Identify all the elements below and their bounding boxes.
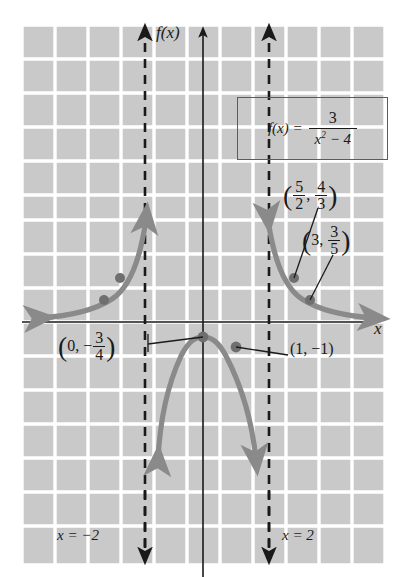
x-axis-label: x xyxy=(374,320,382,337)
paren-open: ( xyxy=(58,333,67,361)
comma: , xyxy=(306,186,314,203)
fraction-3-5: 35 xyxy=(328,224,340,258)
point-label-3-3-5: (3, 35) xyxy=(302,225,350,259)
data-point-neg-5-2 xyxy=(115,273,125,283)
x-value: 3 xyxy=(311,231,319,248)
fraction-numerator: 3 xyxy=(93,330,105,346)
equation-fraction: 3 x2 − 4 xyxy=(309,109,357,149)
equation-denominator-tail: − 4 xyxy=(326,131,351,147)
asymptote-label-left: x = −2 xyxy=(57,528,99,543)
equation-denominator: x2 − 4 xyxy=(309,128,357,148)
fraction-denominator: 4 xyxy=(93,346,105,363)
paren-close: ) xyxy=(328,182,337,210)
equation-numerator: 3 xyxy=(309,109,357,128)
fraction-denominator: 5 xyxy=(328,240,340,257)
point-label-0-neg-3-4: (0, −34) xyxy=(58,331,115,365)
fraction-5-2: 52 xyxy=(293,179,305,213)
rational-function-figure: f(x) = 3 x2 − 4 f(x) x x = −2 x = 2 (52,… xyxy=(0,0,407,577)
fraction-3-4: 34 xyxy=(93,330,105,364)
equation-box: f(x) = 3 x2 − 4 xyxy=(237,97,388,160)
data-point-neg-3 xyxy=(99,295,109,305)
point-label-5-2-4-3: (52, 43) xyxy=(283,180,337,214)
comma: , xyxy=(319,231,327,248)
fraction-4-3: 43 xyxy=(315,179,327,213)
point-label-1-neg-1: (1, −1) xyxy=(290,341,334,357)
paren-close: ) xyxy=(341,227,350,255)
paren-close: ) xyxy=(106,333,115,361)
fraction-denominator: 3 xyxy=(315,195,327,212)
fraction-numerator: 4 xyxy=(315,179,327,195)
comma: , xyxy=(75,337,83,354)
minus-sign: − xyxy=(83,337,92,354)
paren-open: ( xyxy=(283,182,292,210)
fraction-numerator: 5 xyxy=(293,179,305,195)
equation-lhs: f(x) = xyxy=(268,120,303,137)
y-axis-label: f(x) xyxy=(156,24,180,41)
fraction-denominator: 2 xyxy=(293,195,305,212)
paren-open: ( xyxy=(302,227,311,255)
graph-canvas xyxy=(0,0,407,577)
fraction-numerator: 3 xyxy=(328,224,340,240)
x-value: 0 xyxy=(67,337,75,354)
equation-content: f(x) = 3 x2 − 4 xyxy=(238,98,387,159)
asymptote-label-right: x = 2 xyxy=(282,528,314,543)
